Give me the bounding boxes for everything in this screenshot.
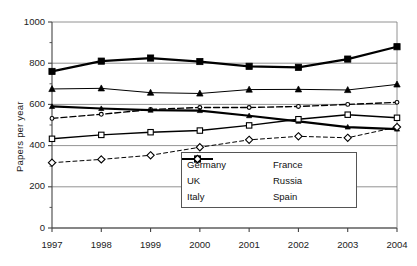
data-point-uk [395,100,399,104]
data-point-germany [147,55,153,61]
data-point-uk [247,106,251,110]
legend-item-italy[interactable]: Italy [187,191,273,202]
data-point-germany [246,63,252,69]
data-point-spain [98,156,105,163]
data-point-spain [295,133,302,140]
data-point-uk [99,112,103,116]
data-point-spain [246,136,253,143]
data-point-spain [48,159,55,166]
data-point-spain [196,144,203,151]
legend-swatch-spain [182,153,213,165]
data-point-germany [295,64,301,70]
series-france [49,81,400,96]
plot-area [0,0,417,266]
data-point-germany [197,58,203,64]
data-point-spain [344,134,351,141]
data-point-uk [346,103,350,107]
data-point-italy [345,112,350,117]
data-point-germany [394,44,400,50]
legend-item-uk[interactable]: UK [187,175,273,186]
data-point-italy [148,130,153,135]
data-point-uk [297,105,301,109]
data-point-italy [394,115,399,120]
data-point-france [394,81,400,87]
series-germany [49,44,400,75]
legend-label-france: France [273,159,303,170]
line-chart: Papers per year 02004006008001000 199719… [0,0,417,266]
data-point-germany [98,58,104,64]
legend-item-russia[interactable]: Russia [273,175,359,186]
legend-label-spain: Spain [273,191,297,202]
data-point-italy [296,117,301,122]
data-point-germany [345,56,351,62]
legend-label-russia: Russia [273,175,302,186]
legend-item-france[interactable]: France [273,159,359,170]
legend-item-spain[interactable]: Spain [273,191,359,202]
data-point-italy [99,132,104,137]
legend-label-italy: Italy [187,191,204,202]
legend: GermanyFranceUKRussiaItalySpain [181,152,357,208]
data-point-italy [197,128,202,133]
legend-marker [194,155,201,162]
data-point-spain [147,152,154,159]
data-point-italy [246,123,251,128]
data-point-germany [49,68,55,74]
data-point-italy [49,136,54,141]
legend-label-uk: UK [187,175,200,186]
data-point-uk [50,117,54,121]
